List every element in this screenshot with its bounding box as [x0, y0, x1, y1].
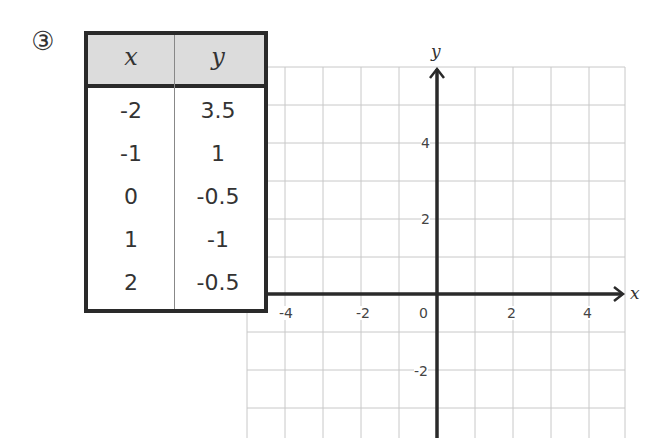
column-divider: [174, 35, 175, 309]
x-axis-label: x: [630, 283, 640, 303]
cell-y: 1: [175, 141, 261, 166]
y-axis: [430, 69, 444, 438]
x-tick: 4: [583, 306, 592, 320]
values-table: x y -2 3.5 -1 1 0 -0.5 1 -1 2 -0.5: [84, 31, 268, 313]
cell-x: 0: [88, 184, 174, 209]
x-tick: 0: [419, 306, 428, 320]
cell-y: 3.5: [175, 98, 261, 123]
cell-x: 2: [88, 270, 174, 295]
header-x: x: [88, 43, 174, 71]
cell-x: 1: [88, 227, 174, 252]
header-y: y: [175, 43, 261, 71]
y-tick: 2: [421, 212, 430, 226]
cell-x: -1: [88, 141, 174, 166]
x-tick: -2: [356, 306, 370, 320]
y-tick: 4: [421, 136, 430, 150]
cell-y: -0.5: [175, 184, 261, 209]
cell-x: -2: [88, 98, 174, 123]
cell-y: -0.5: [175, 270, 261, 295]
x-tick: -4: [279, 306, 293, 320]
cell-y: -1: [175, 227, 261, 252]
y-tick: -2: [414, 364, 428, 378]
x-tick: 2: [507, 306, 516, 320]
table-header: x y: [88, 35, 264, 88]
y-axis-label: y: [431, 41, 441, 61]
